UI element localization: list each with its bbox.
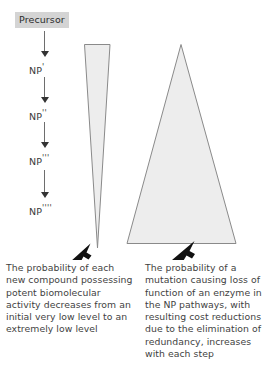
increasing-probability-triangle xyxy=(127,45,236,244)
pathway-step-1: NP' xyxy=(29,62,45,76)
left-caption: The probability of each new compound pos… xyxy=(6,262,134,336)
flow-arrow-3 xyxy=(40,122,49,148)
pathway-step-3: NP''' xyxy=(29,153,50,167)
pathway-step-primes: '' xyxy=(42,109,47,118)
pathway-step-primes: ' xyxy=(42,63,45,72)
biosynthetic-pathway: Precursor NP' NP'' NP''' NP'''' xyxy=(0,0,96,250)
flow-arrow-head-icon xyxy=(41,51,49,57)
pathway-step-2: NP'' xyxy=(29,108,47,122)
figure-canvas: Precursor NP' NP'' NP''' NP'''' The prob… xyxy=(0,0,278,371)
precursor-label: Precursor xyxy=(15,12,69,28)
right-caption: The probability of a mutation causing lo… xyxy=(145,262,273,360)
flow-arrow-shaft xyxy=(44,77,45,98)
flow-arrow-head-icon xyxy=(41,142,49,148)
flow-arrow-shaft xyxy=(44,170,45,193)
flow-arrow-shaft xyxy=(44,122,45,143)
pathway-step-primes: ''' xyxy=(42,154,50,163)
pathway-step-base: NP xyxy=(29,111,42,122)
flow-arrow-head-icon xyxy=(41,192,49,198)
flow-arrow-2 xyxy=(40,77,49,103)
flow-arrow-head-icon xyxy=(41,97,49,103)
flow-arrow-shaft xyxy=(44,31,45,52)
pathway-step-primes: '''' xyxy=(42,204,52,213)
pathway-step-4: NP'''' xyxy=(29,203,52,217)
right-pointer-arrow xyxy=(172,241,195,260)
pathway-step-base: NP xyxy=(29,65,42,76)
pathway-step-base: NP xyxy=(29,156,42,167)
flow-arrow-1 xyxy=(40,31,49,57)
pathway-step-base: NP xyxy=(29,206,42,217)
flow-arrow-4 xyxy=(40,170,49,198)
